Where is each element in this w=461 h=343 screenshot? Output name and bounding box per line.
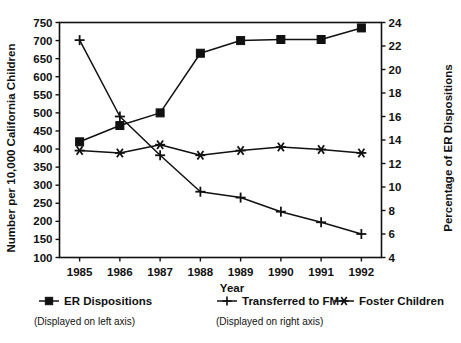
left-tick-label: 400: [33, 143, 52, 155]
square-marker-icon: [277, 35, 285, 43]
right-tick-label: 22: [389, 40, 402, 52]
right-tick-label: 8: [389, 205, 396, 217]
series-er-dispositions: [76, 24, 366, 146]
legend-item-label: ER Dispositions: [64, 295, 152, 307]
legend-item-label: Foster Children: [359, 295, 444, 307]
right-tick-label: 18: [389, 87, 402, 99]
legend-item-transferred-to-fm[interactable]: Transferred to FM: [217, 295, 339, 307]
right-tick-label: 16: [389, 111, 402, 123]
legend-note-right: (Displayed on right axis): [216, 316, 323, 327]
chart-legend: ER DispositionsTransferred to FMFoster C…: [34, 295, 444, 327]
square-marker-icon: [196, 49, 204, 57]
left-tick-label: 500: [33, 107, 52, 119]
x-tick-label: 1986: [107, 266, 133, 278]
x-tick-label: 1988: [188, 266, 214, 278]
square-marker-icon: [156, 109, 164, 117]
left-tick-label: 600: [33, 71, 52, 83]
left-axis-title: Number per 10,000 California Children: [5, 44, 17, 253]
right-tick-label: 12: [389, 158, 402, 170]
x-tick-label: 1989: [228, 266, 254, 278]
left-tick-label: 100: [33, 252, 52, 264]
series-foster-children: [75, 140, 367, 159]
left-tick-label: 700: [33, 35, 52, 47]
right-tick-label: 6: [389, 228, 395, 240]
right-tick-label: 4: [389, 252, 396, 264]
left-tick-label: 450: [33, 125, 52, 137]
square-marker-icon: [116, 122, 124, 130]
x-tick-label: 1987: [147, 266, 173, 278]
legend-item-er-dispositions[interactable]: ER Dispositions: [39, 295, 152, 307]
x-tick-label: 1992: [349, 266, 375, 278]
x-tick-label: 1990: [268, 266, 294, 278]
legend-item-label: Transferred to FM: [242, 295, 339, 307]
plot-frame: [60, 23, 382, 258]
left-tick-label: 200: [33, 215, 52, 227]
right-tick-label: 14: [389, 134, 402, 146]
right-tick-label: 20: [389, 64, 402, 76]
legend-item-foster-children[interactable]: Foster Children: [334, 295, 444, 307]
left-tick-label: 750: [33, 17, 52, 29]
left-axis-ticks: 1001502002503003504004505005506006507007…: [33, 17, 59, 264]
left-tick-label: 250: [33, 197, 52, 209]
right-tick-label: 24: [389, 17, 402, 29]
left-tick-label: 650: [33, 53, 52, 65]
left-tick-label: 150: [33, 233, 52, 245]
x-axis-title: Year: [220, 282, 245, 294]
series-transferred-to-fm: [75, 35, 367, 239]
square-marker-icon: [45, 297, 52, 304]
chart-svg: Number per 10,000 California Children Pe…: [0, 0, 461, 343]
chart-container: Number per 10,000 California Children Pe…: [0, 0, 461, 343]
legend-note-left: (Displayed on left axis): [34, 316, 135, 327]
left-tick-label: 300: [33, 179, 52, 191]
x-tick-label: 1985: [67, 266, 93, 278]
square-marker-icon: [76, 138, 84, 146]
left-tick-label: 550: [33, 89, 52, 101]
right-axis-ticks: 4681012141618202224: [382, 17, 402, 264]
x-axis-ticks: 19851986198719881989199019911992: [67, 258, 374, 278]
right-tick-label: 10: [389, 181, 402, 193]
series-layer: [75, 24, 367, 239]
left-tick-label: 350: [33, 161, 52, 173]
x-tick-label: 1991: [308, 266, 334, 278]
square-marker-icon: [357, 24, 365, 32]
right-axis-title: Percentage of ER Dispositions: [442, 64, 454, 231]
square-marker-icon: [317, 35, 325, 43]
series-line: [80, 40, 362, 234]
square-marker-icon: [237, 37, 245, 45]
